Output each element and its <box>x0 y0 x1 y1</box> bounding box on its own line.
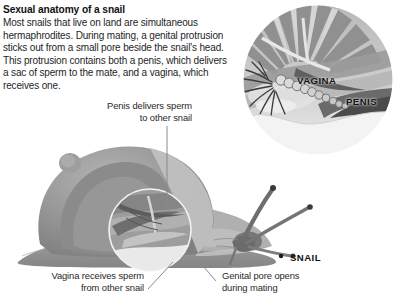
genital-pore-leader-line <box>203 266 216 281</box>
snail-label: SNAIL <box>290 252 321 263</box>
inset-vagina-label: VAGINA <box>297 75 336 86</box>
penis-callout-label: Penis delivers sperm to other snail <box>72 100 192 123</box>
figure-root: Sexual anatomy of a snail Most snails th… <box>0 0 400 300</box>
genital-pore-callout-label: Genital pore opens during mating <box>222 270 352 293</box>
inset-penis-label: PENIS <box>346 96 377 107</box>
snail-label-dot <box>279 254 283 258</box>
vagina-callout-label: Vagina receives sperm from other snail <box>6 270 144 293</box>
illustration-canvas <box>0 0 400 300</box>
snail-illustration <box>18 147 313 271</box>
